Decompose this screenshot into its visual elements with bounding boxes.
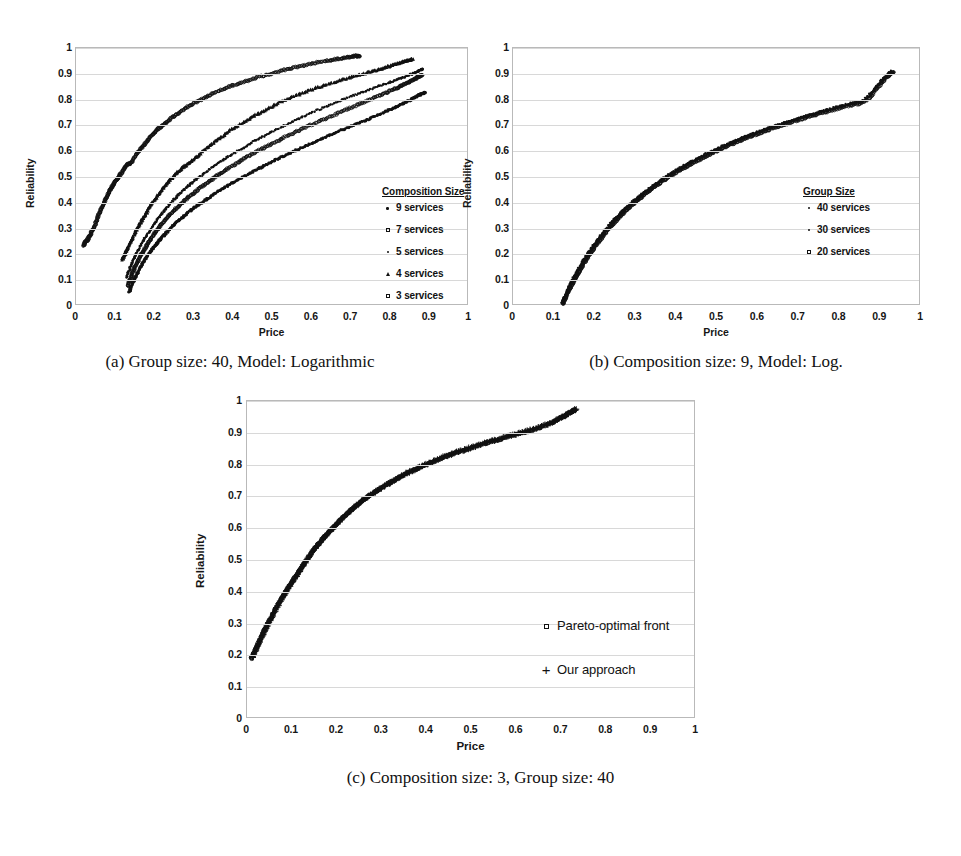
x-axis-title-a: Price xyxy=(75,326,468,338)
x-tick-label: 0.1 xyxy=(97,310,131,322)
x-tick-label: 0.6 xyxy=(740,310,774,322)
legend-items-b: 40 services30 services20 services xyxy=(803,202,870,257)
gridline xyxy=(76,177,467,178)
y-tick-label: 0.3 xyxy=(208,617,242,629)
legend-item-label: 30 services xyxy=(817,224,870,235)
y-tick-label: 0.4 xyxy=(475,196,509,208)
x-tick-label: 0.2 xyxy=(137,310,171,322)
x-tick-label: 0.3 xyxy=(617,310,651,322)
x-tick-label: 0.5 xyxy=(255,310,289,322)
gridline xyxy=(76,48,467,49)
caption-c: (c) Composition size: 3, Group size: 40 xyxy=(0,768,961,788)
x-tick-label: 0.5 xyxy=(454,723,488,735)
legend-item-label: 3 services xyxy=(396,290,443,301)
x-tick-label: 0.6 xyxy=(498,723,532,735)
legend-item-label: Pareto-optimal front xyxy=(557,618,669,633)
y-tick-label: 0.6 xyxy=(38,144,72,156)
legend-item-label: 20 services xyxy=(817,246,870,257)
x-tick-label: 1 xyxy=(903,310,937,322)
legend-marker-ring-icon xyxy=(382,224,393,235)
y-tick-label: 0.2 xyxy=(38,247,72,259)
gridline xyxy=(513,125,919,126)
legend-item-label: 4 services xyxy=(396,268,443,279)
y-axis-title-b: Reliability xyxy=(461,158,473,208)
legend-item-label: Our approach xyxy=(557,662,635,677)
gridline xyxy=(513,48,919,49)
x-tick-label: 0.2 xyxy=(319,723,353,735)
y-tick-label: 0.5 xyxy=(208,553,242,565)
legend-item: Pareto-optimal front xyxy=(538,618,669,633)
gridline xyxy=(247,433,694,434)
y-tick-label: 0.7 xyxy=(208,489,242,501)
y-tick-label: 1 xyxy=(475,41,509,53)
gridline xyxy=(247,465,694,466)
gridline xyxy=(247,560,694,561)
series-our-approach xyxy=(250,406,580,660)
gridline xyxy=(76,151,467,152)
x-tick-label: 0.5 xyxy=(699,310,733,322)
legend-items-c: Pareto-optimal front+Our approach xyxy=(538,618,669,678)
x-tick-label: 0.3 xyxy=(176,310,210,322)
y-tick-label: 0.3 xyxy=(475,222,509,234)
gridline xyxy=(247,528,694,529)
legend-item-label: 40 services xyxy=(817,202,870,213)
y-tick-label: 0.6 xyxy=(475,144,509,156)
y-tick-label: 0.9 xyxy=(38,67,72,79)
x-tick-label: 0.1 xyxy=(274,723,308,735)
legend-item: +Our approach xyxy=(538,661,669,678)
legend-item: 7 services xyxy=(382,224,464,235)
gridline xyxy=(247,592,694,593)
series-4-services xyxy=(120,57,415,261)
panel-a: 00.10.20.30.40.50.60.70.80.91 00.10.20.3… xyxy=(0,0,480,390)
y-tick-label: 0.1 xyxy=(208,680,242,692)
y-tick-label: 1 xyxy=(208,394,242,406)
panel-c: 00.10.20.30.40.50.60.70.80.91 00.10.20.3… xyxy=(0,390,961,830)
y-tick-label: 1 xyxy=(38,41,72,53)
y-tick-label: 0.7 xyxy=(38,118,72,130)
y-axis-title-c: Reliability xyxy=(194,534,206,588)
y-tick-label: 0.6 xyxy=(208,521,242,533)
legend-marker-sdot-icon xyxy=(803,224,814,235)
gridline xyxy=(247,496,694,497)
legend-marker-ring-icon xyxy=(382,290,393,301)
legend-item: 3 services xyxy=(382,290,464,301)
legend-title-b: Group Size xyxy=(803,186,870,197)
y-tick-label: 0.8 xyxy=(475,93,509,105)
y-tick-label: 0.4 xyxy=(38,196,72,208)
x-tick-label: 0.4 xyxy=(409,723,443,735)
legend-item: 5 services xyxy=(382,246,464,257)
gridline xyxy=(76,74,467,75)
y-axis-ticks-b: 00.10.20.30.40.50.60.70.80.91 xyxy=(473,47,509,305)
legend-item-label: 7 services xyxy=(396,224,443,235)
legend-item: 40 services xyxy=(803,202,870,213)
legend-marker-dot-icon xyxy=(382,202,393,213)
legend-items-a: 9 services7 services5 services4 services… xyxy=(382,202,464,301)
x-tick-label: 0.8 xyxy=(588,723,622,735)
x-tick-label: 0.7 xyxy=(781,310,815,322)
x-tick-label: 0.2 xyxy=(577,310,611,322)
legend-item: 30 services xyxy=(803,224,870,235)
legend-title-a: Composition Size xyxy=(382,186,464,197)
y-tick-label: 0.1 xyxy=(38,273,72,285)
y-tick-label: 0.8 xyxy=(208,458,242,470)
x-tick-label: 0 xyxy=(495,310,529,322)
legend-b: Group Size 40 services30 services20 serv… xyxy=(803,186,870,268)
y-axis-title-a: Reliability xyxy=(24,158,36,208)
legend-marker-sdot-icon xyxy=(382,246,393,257)
y-axis-ticks-a: 00.10.20.30.40.50.60.70.80.91 xyxy=(36,47,72,305)
x-tick-label: 1 xyxy=(678,723,712,735)
legend-item-label: 9 services xyxy=(396,202,443,213)
x-tick-label: 0.4 xyxy=(215,310,249,322)
y-tick-label: 0.2 xyxy=(475,247,509,259)
gridline xyxy=(513,151,919,152)
y-tick-label: 0.8 xyxy=(38,93,72,105)
y-tick-label: 0.5 xyxy=(38,170,72,182)
legend-marker-tri-icon xyxy=(382,268,393,279)
legend-marker-plus-icon: + xyxy=(538,661,554,678)
gridline xyxy=(513,280,919,281)
legend-item: 20 services xyxy=(803,246,870,257)
x-axis-ticks-b: 00.10.20.30.40.50.60.70.80.91 xyxy=(512,310,920,326)
panel-b: 00.10.20.30.40.50.60.70.80.91 00.10.20.3… xyxy=(481,0,961,390)
legend-item: 9 services xyxy=(382,202,464,213)
x-tick-label: 0.3 xyxy=(364,723,398,735)
